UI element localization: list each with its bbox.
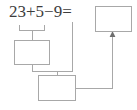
second-step-answer-box[interactable] [38,75,76,101]
connector-step1-to-step2 [32,65,57,75]
final-answer-box[interactable] [95,6,132,32]
underbrace-23-plus-5-icon [20,25,45,31]
first-step-answer-box[interactable] [14,40,50,65]
diagram-canvas: 23+5−9= [0,0,137,110]
connector-operand9-to-step2 [57,22,73,72]
connector-step2-to-result [76,36,113,88]
